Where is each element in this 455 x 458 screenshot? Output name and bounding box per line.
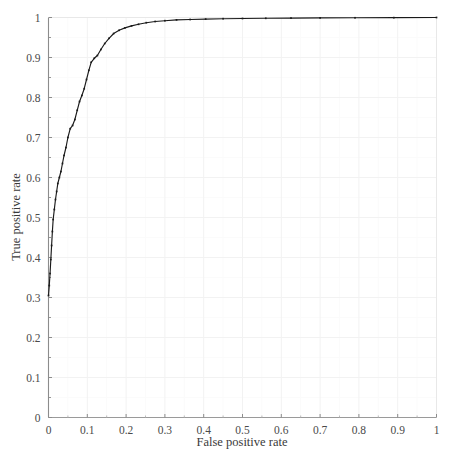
x-tick-label: 0: [46, 424, 52, 436]
roc-data-point: [108, 37, 110, 39]
roc-data-point: [118, 29, 120, 31]
x-tick-labels: 00.10.20.30.40.50.60.70.80.91: [46, 424, 440, 436]
roc-data-point: [164, 20, 166, 22]
roc-data-point: [79, 101, 81, 103]
x-tick-label: 0.9: [391, 424, 406, 436]
y-axis-title: True positive rate: [9, 173, 23, 261]
y-tick-label: 0.7: [26, 132, 41, 144]
y-tick-label: 0.3: [26, 292, 41, 304]
roc-data-point: [65, 147, 67, 149]
y-tick-label: 0.2: [26, 332, 41, 344]
roc-data-point: [436, 17, 438, 19]
roc-data-point: [290, 17, 292, 19]
roc-data-point: [57, 183, 59, 185]
y-tick-label: 0.4: [26, 252, 41, 264]
roc-data-point: [74, 119, 76, 121]
roc-data-point: [124, 27, 126, 29]
y-tick-label: 0.8: [26, 92, 41, 104]
y-tick-label: 0.6: [26, 172, 41, 184]
roc-data-point: [63, 155, 65, 157]
roc-data-point: [53, 209, 55, 211]
roc-data-point: [131, 25, 133, 27]
roc-data-point: [51, 245, 53, 247]
roc-data-point: [145, 22, 147, 24]
roc-data-point: [50, 259, 52, 261]
roc-data-point: [242, 18, 244, 20]
roc-data-point: [265, 17, 267, 19]
roc-data-point: [104, 43, 106, 45]
roc-data-point: [52, 231, 54, 233]
roc-data-point: [59, 177, 61, 179]
y-tick-label: 0.1: [26, 372, 41, 384]
roc-data-point: [222, 18, 224, 20]
roc-data-point: [319, 17, 321, 19]
roc-data-point: [86, 79, 88, 81]
roc-data-point: [76, 109, 78, 111]
x-tick-label: 0.6: [274, 424, 289, 436]
roc-data-point: [154, 21, 156, 23]
roc-data-point: [69, 128, 71, 130]
roc-data-point: [52, 219, 54, 221]
roc-data-point: [113, 33, 115, 35]
roc-data-point: [138, 23, 140, 25]
roc-data-point: [88, 69, 90, 71]
roc-data-point: [354, 17, 356, 19]
y-tick-label: 0.9: [26, 52, 41, 64]
roc-data-point: [67, 137, 69, 139]
roc-data-point: [72, 125, 74, 127]
roc-data-point: [49, 273, 51, 275]
roc-data-point: [55, 199, 57, 201]
y-tick-label: 0: [35, 412, 41, 424]
y-tick-labels: 00.10.20.30.40.50.60.70.80.91: [26, 12, 41, 424]
roc-data-point: [176, 19, 178, 21]
y-tick-label: 0.5: [26, 212, 41, 224]
roc-data-point: [56, 191, 58, 193]
x-tick-label: 0.8: [352, 424, 367, 436]
x-tick-label: 0.5: [235, 424, 250, 436]
x-axis-title: False positive rate: [197, 435, 288, 449]
x-tick-label: 0.4: [197, 424, 212, 436]
x-tick-label: 0.3: [158, 424, 173, 436]
roc-data-point: [100, 49, 102, 51]
x-tick-label: 0.2: [119, 424, 134, 436]
roc-data-point: [62, 163, 64, 165]
roc-data-point: [83, 88, 85, 90]
roc-data-point: [48, 295, 50, 297]
x-tick-label: 0.7: [313, 424, 328, 436]
x-tick-label: 1: [434, 424, 440, 436]
x-tick-label: 0.1: [80, 424, 95, 436]
roc-data-point: [93, 57, 95, 59]
plot-canvas: 00.10.20.30.40.50.60.70.80.91 00.10.20.3…: [0, 0, 455, 458]
roc-data-point: [189, 19, 191, 21]
roc-chart-figure: 00.10.20.30.40.50.60.70.80.91 00.10.20.3…: [0, 0, 455, 458]
roc-data-point: [81, 95, 83, 97]
roc-data-point: [97, 55, 99, 57]
roc-data-point: [48, 285, 50, 287]
roc-data-point: [60, 171, 62, 173]
roc-data-point: [90, 61, 92, 63]
y-tick-label: 1: [35, 12, 41, 24]
roc-data-point: [205, 18, 207, 20]
roc-data-point: [393, 17, 395, 19]
